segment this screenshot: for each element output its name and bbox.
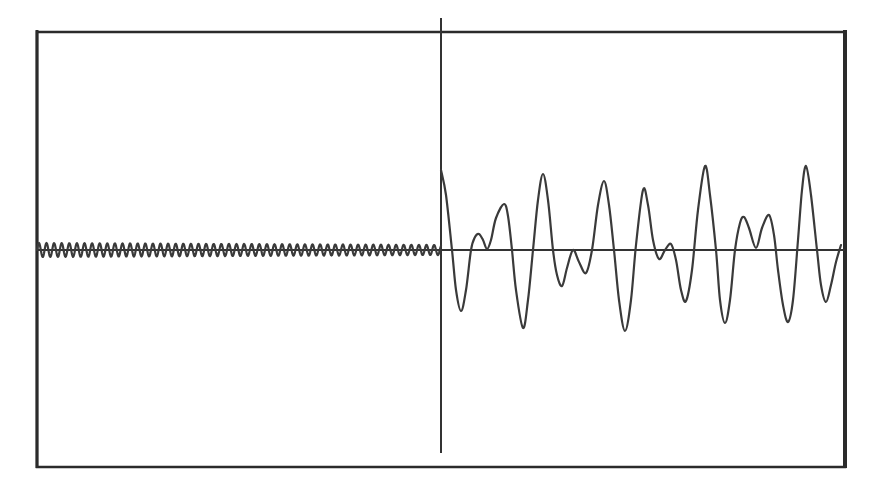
waveform-chart (0, 0, 879, 491)
waveform-post-marker (441, 166, 841, 331)
